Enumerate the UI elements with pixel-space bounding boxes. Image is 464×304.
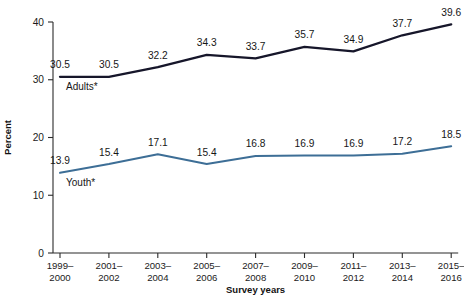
x-tick-label: 2015–2016 [438, 260, 464, 283]
data-point-label: 17.2 [392, 136, 412, 147]
series-label-youth: Youth* [66, 177, 95, 188]
y-tick-label: 10 [33, 190, 45, 201]
x-tick-label: 2013–2014 [389, 260, 416, 283]
x-axis-title: Survey years [226, 284, 285, 295]
data-point-label: 16.8 [246, 138, 266, 149]
data-point-label: 37.7 [392, 18, 412, 29]
data-point-label: 16.9 [295, 138, 315, 149]
data-point-label: 15.4 [99, 147, 119, 158]
data-point-label: 17.1 [148, 137, 168, 148]
y-tick-label: 0 [38, 248, 44, 259]
data-point-label: 13.9 [50, 155, 70, 166]
data-point-label: 32.2 [148, 50, 168, 61]
x-tick-label: 2009–2010 [291, 260, 318, 283]
x-tick-label: 2003–2004 [144, 260, 171, 283]
chart-container: 0102030401999–20002001–20022003–20042005… [0, 0, 464, 304]
series-label-adults: Adults* [66, 81, 98, 92]
data-point-label: 15.4 [197, 147, 217, 158]
data-point-label: 30.5 [99, 59, 119, 70]
data-point-label: 34.3 [197, 37, 217, 48]
y-tick-label: 40 [33, 17, 45, 28]
x-tick-label: 2007–2008 [242, 260, 269, 283]
y-tick-label: 30 [33, 74, 45, 85]
x-tick-label: 2011–2012 [340, 260, 367, 283]
x-tick-label: 2005–2006 [193, 260, 220, 283]
data-point-label: 34.9 [343, 34, 363, 45]
data-point-label: 30.5 [50, 59, 70, 70]
y-axis-title: Percent [2, 119, 13, 155]
data-point-label: 16.9 [343, 138, 363, 149]
data-point-label: 35.7 [295, 29, 315, 40]
x-tick-label: 2001–2002 [96, 260, 123, 283]
y-tick-label: 20 [33, 132, 45, 143]
data-point-label: 18.5 [441, 129, 461, 140]
data-point-label: 33.7 [246, 41, 266, 52]
data-point-label: 39.6 [441, 7, 461, 18]
x-tick-label: 1999–2000 [47, 260, 74, 283]
line-chart: 0102030401999–20002001–20022003–20042005… [0, 0, 464, 304]
